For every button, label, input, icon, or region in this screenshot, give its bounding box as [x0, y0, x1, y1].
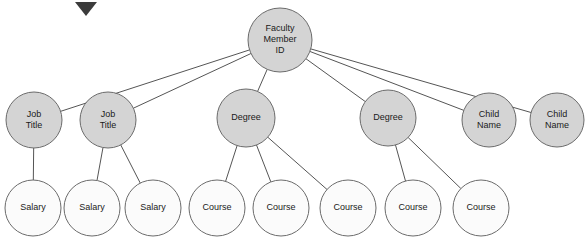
- tree-diagram: FacultyMemberIDJobTitleJobTitleDegreeDeg…: [0, 0, 588, 240]
- tree-node[interactable]: Course: [385, 180, 441, 236]
- node-circle[interactable]: [530, 93, 584, 147]
- tree-edge: [257, 145, 271, 182]
- node-circle[interactable]: [189, 180, 245, 236]
- tree-node[interactable]: Degree: [360, 90, 416, 146]
- node-circle[interactable]: [217, 89, 275, 147]
- node-circle[interactable]: [453, 180, 509, 236]
- node-circle[interactable]: [125, 180, 181, 236]
- tree-node[interactable]: ChildName: [462, 93, 516, 147]
- tree-edge: [395, 145, 405, 181]
- tree-node[interactable]: JobTitle: [80, 92, 136, 148]
- tree-diagram-canvas: FacultyMemberIDJobTitleJobTitleDegreeDeg…: [0, 0, 588, 240]
- diamond-marker-layer: [75, 2, 97, 16]
- tree-node[interactable]: Salary: [125, 180, 181, 236]
- tree-edge: [226, 146, 238, 182]
- tree-node[interactable]: Course: [253, 180, 309, 236]
- node-circle[interactable]: [6, 92, 62, 148]
- tree-node[interactable]: FacultyMemberID: [248, 8, 312, 72]
- node-circle[interactable]: [80, 92, 136, 148]
- tree-node[interactable]: Degree: [217, 89, 275, 147]
- tree-edge: [258, 69, 268, 91]
- node-circle[interactable]: [64, 180, 120, 236]
- tree-node[interactable]: Salary: [5, 180, 61, 236]
- node-circle[interactable]: [253, 180, 309, 236]
- node-layer: FacultyMemberIDJobTitleJobTitleDegreeDeg…: [5, 8, 584, 236]
- tree-edge: [121, 145, 141, 183]
- diamond-marker-icon: [75, 2, 97, 16]
- node-circle[interactable]: [360, 90, 416, 146]
- tree-node[interactable]: ChildName: [530, 93, 584, 147]
- node-circle[interactable]: [248, 8, 312, 72]
- node-circle[interactable]: [5, 180, 61, 236]
- tree-node[interactable]: JobTitle: [6, 92, 62, 148]
- tree-node[interactable]: Course: [189, 180, 245, 236]
- tree-edge: [97, 148, 103, 181]
- node-circle[interactable]: [385, 180, 441, 236]
- tree-node[interactable]: Course: [453, 180, 509, 236]
- tree-node[interactable]: Course: [320, 180, 376, 236]
- node-circle[interactable]: [462, 93, 516, 147]
- tree-edge: [306, 59, 365, 102]
- node-circle[interactable]: [320, 180, 376, 236]
- tree-node[interactable]: Salary: [64, 180, 120, 236]
